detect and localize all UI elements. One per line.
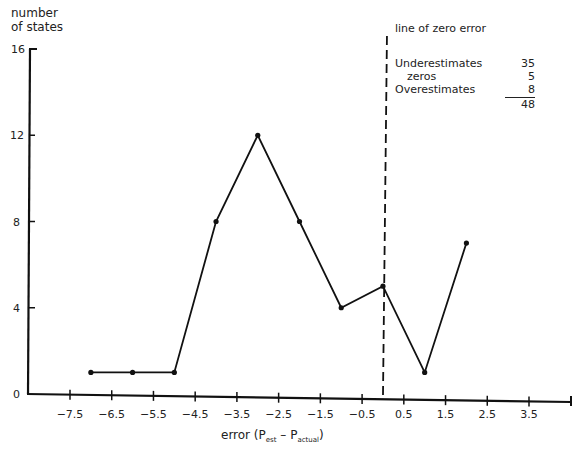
legend-value: 5: [505, 70, 535, 83]
legend-row-underestimates: Underestimates 35: [395, 57, 535, 70]
data-point: [172, 370, 177, 375]
data-points: [88, 133, 469, 375]
legend-value: 8: [505, 83, 535, 96]
zero-line-label: line of zero error: [395, 22, 535, 35]
y-axis-label: number of states: [11, 6, 63, 34]
data-point: [130, 370, 135, 375]
legend-value: 35: [505, 57, 535, 70]
data-point: [339, 305, 344, 310]
x-tick-label: 0.5: [395, 408, 413, 421]
x-tick-label: −7.5: [57, 408, 84, 421]
data-point: [297, 219, 302, 224]
legend-total: 48: [395, 98, 535, 112]
x-tick-label: −4.5: [182, 408, 209, 421]
x-tick-label: −6.5: [98, 408, 125, 421]
x-tick-label: −1.5: [307, 408, 334, 421]
data-point: [422, 370, 427, 375]
zero-error-line: [383, 36, 387, 399]
x-axis-line: [27, 394, 571, 402]
y-tick-label: 8: [13, 216, 20, 229]
x-label-part: ): [319, 428, 324, 442]
x-axis-label: error (Pest – Pactual): [221, 428, 324, 444]
x-tick-label: 2.5: [479, 408, 497, 421]
x-axis: −7.5−6.5−5.5−4.5−3.5−2.5−1.5−0.50.51.52.…: [27, 390, 571, 421]
x-label-subscript-actual: actual: [297, 436, 319, 444]
y-tick-label: 4: [13, 302, 20, 315]
y-tick-label: 12: [10, 129, 24, 142]
x-tick-label: −3.5: [224, 408, 251, 421]
legend-label: Overestimates: [395, 83, 475, 96]
y-tick-label: 0: [13, 388, 20, 401]
y-axis: 0481216: [10, 43, 37, 401]
x-tick-label: −5.5: [140, 408, 167, 421]
x-label-subscript-est: est: [266, 436, 277, 444]
summary-legend: line of zero error Underestimates 35 zer…: [395, 22, 535, 112]
x-tick-label: −0.5: [349, 408, 376, 421]
data-point: [255, 133, 260, 138]
legend-row-overestimates: Overestimates 8: [395, 83, 535, 96]
series-line: [91, 135, 467, 372]
x-label-part: error (P: [221, 428, 266, 442]
legend-label: Underestimates: [395, 57, 482, 70]
x-tick-label: 1.5: [437, 408, 455, 421]
legend-row-zeros: zeros 5: [395, 70, 535, 83]
data-point: [213, 219, 218, 224]
data-point: [380, 284, 385, 289]
data-point: [88, 370, 93, 375]
x-label-part: – P: [277, 428, 298, 442]
data-point: [464, 240, 469, 245]
y-axis-label-line1: number: [11, 6, 63, 20]
x-tick-label: 3.5: [520, 408, 538, 421]
y-axis-label-line2: of states: [11, 20, 63, 34]
y-tick-label: 16: [11, 43, 25, 56]
x-tick-label: −2.5: [265, 408, 292, 421]
legend-label: zeros: [395, 70, 436, 83]
